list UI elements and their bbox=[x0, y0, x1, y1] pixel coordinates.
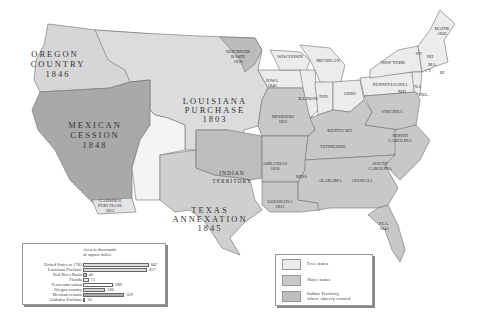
chart-row: Gadsden Purchase30 bbox=[23, 297, 165, 302]
state-label-ohio: OHIO bbox=[344, 91, 356, 96]
legend-swatch-slave bbox=[282, 275, 301, 286]
state-label-iowa: 1846 bbox=[267, 83, 277, 88]
label-louisiana-year: 1803 bbox=[203, 114, 228, 124]
state-label-wisconsin: WISCONSIN bbox=[277, 54, 303, 59]
legend-swatch-indian bbox=[282, 291, 301, 302]
chart-category-label: Gadsden Purchase bbox=[2, 297, 82, 302]
legend-label-indian: Indian Territory, where slavery existed bbox=[307, 291, 350, 302]
state-label-md: MD bbox=[398, 89, 406, 94]
legend-label-indian-2: where slavery existed bbox=[307, 296, 350, 302]
chart-bar bbox=[83, 278, 89, 282]
state-label-del: DEL. bbox=[419, 92, 429, 97]
state-new-england[interactable] bbox=[418, 10, 455, 72]
chart-title: Area in thousands of square miles bbox=[83, 247, 143, 257]
chart-bar bbox=[83, 283, 113, 287]
label-gadsden-year: 1853 bbox=[105, 208, 115, 213]
area-bar-chart: Area in thousands of square miles United… bbox=[22, 243, 166, 305]
state-label-virginia: VIRGINIA bbox=[382, 109, 404, 114]
state-label-louisiana: 1812 bbox=[275, 204, 285, 209]
state-label-south: CAROLINA bbox=[368, 166, 392, 171]
map-legend: Free states Slave states Indian Territor… bbox=[275, 254, 373, 306]
label-redriver-year: 1818 bbox=[233, 59, 243, 64]
state-label-ind: IND. bbox=[319, 94, 328, 99]
legend-label-free: Free states bbox=[307, 261, 328, 267]
chart-bar bbox=[83, 298, 85, 302]
chart-title-line2: of square miles bbox=[83, 252, 143, 257]
state-label-n-j: N.J. bbox=[414, 84, 421, 89]
state-label-ct: CT bbox=[425, 68, 431, 73]
state-label-fla: 1845 bbox=[379, 226, 389, 231]
state-label-michigan: MICHIGAN bbox=[316, 58, 340, 63]
label-mexican: MEXICAN bbox=[68, 120, 122, 130]
state-label-nh: NH bbox=[427, 54, 434, 59]
chart-bar bbox=[83, 273, 87, 277]
label-oregon: OREGON bbox=[31, 49, 78, 59]
chart-bar bbox=[83, 268, 147, 272]
state-label-missouri: 1821 bbox=[278, 119, 288, 124]
legend-item-slave: Slave states bbox=[282, 274, 330, 286]
state-label-alabama: ALABAMA bbox=[318, 178, 342, 183]
label-indian: INDIAN bbox=[219, 170, 245, 176]
state-label-tennessee: TENNESSEE bbox=[320, 144, 346, 149]
chart-bar bbox=[83, 293, 124, 297]
state-label-ri: RI bbox=[440, 70, 445, 75]
state-label-maine: 1820 bbox=[437, 31, 447, 36]
label-texas-year: 1845 bbox=[198, 223, 223, 233]
label-mexican-year: 1848 bbox=[83, 140, 108, 150]
state-label-kentucky: KENTUCKY bbox=[327, 128, 353, 133]
chart-value-label: 30 bbox=[87, 297, 91, 302]
state-label-illinois: ILLINOIS bbox=[298, 96, 318, 101]
legend-item-free: Free states bbox=[282, 258, 328, 270]
state-label-miss: MISS. bbox=[296, 174, 308, 179]
state-label-georgia: GEORGIA bbox=[352, 178, 373, 183]
legend-swatch-free bbox=[282, 259, 301, 270]
chart-bar bbox=[83, 263, 149, 267]
label-oregon-2: COUNTRY bbox=[31, 59, 86, 69]
state-label-new-york: NEW YORK bbox=[381, 60, 406, 65]
state-label-arkansas: 1836 bbox=[270, 166, 280, 171]
state-label-pennsylvania: PENNSYLVANIA bbox=[373, 82, 408, 87]
state-label-vt: VT. bbox=[416, 51, 423, 56]
label-indian-2: TERRITORY bbox=[212, 178, 251, 184]
state-florida[interactable] bbox=[368, 205, 405, 262]
state-label-north: CAROLINA bbox=[388, 138, 412, 143]
label-oregon-year: 1846 bbox=[46, 69, 71, 79]
legend-label-slave: Slave states bbox=[307, 277, 330, 283]
chart-bar bbox=[83, 288, 105, 292]
label-mexican-2: CESSION bbox=[70, 130, 119, 140]
legend-item-indian: Indian Territory, where slavery existed bbox=[282, 290, 350, 302]
state-label-ma: MA bbox=[428, 62, 436, 67]
